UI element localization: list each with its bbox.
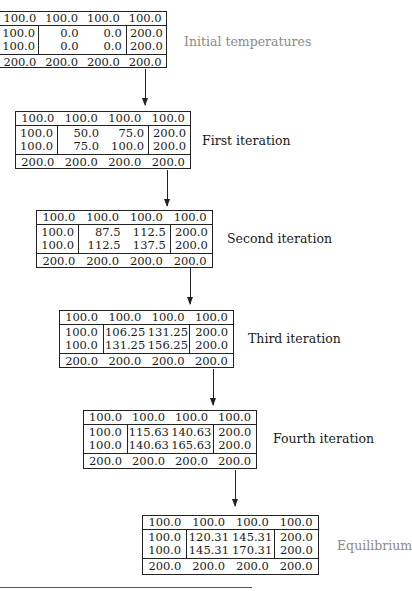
cell: 200.0	[231, 559, 275, 573]
inner-col-1: 115.63 140.63	[128, 425, 171, 453]
cell: 100.0	[103, 311, 146, 324]
cell: 137.5	[125, 239, 166, 252]
inner-col-1: 120.31 145.31	[187, 530, 230, 558]
grid-top-row: 100.0 100.0 100.0 100.0	[60, 311, 233, 325]
cell: 200.0	[127, 454, 170, 468]
cell: 200.0	[170, 454, 213, 468]
footnote-rule	[0, 587, 252, 588]
grid-equilibrium: 100.0 100.0 100.0 100.0 100.0 100.0 120.…	[142, 515, 319, 575]
grid-first-iteration: 100.0 100.0 100.0 100.0 100.0 100.0 50.0…	[15, 111, 191, 169]
cell: 165.63	[170, 439, 213, 452]
grid-middle: 100.0 100.0 0.0 0.0 0.0 0.0 200.0 200.0	[0, 26, 166, 54]
grid-top-row: 100.0 100.0 100.0 100.0	[143, 516, 318, 530]
cell: 100.0	[60, 339, 103, 352]
inner-col-1: 87.5 112.5	[79, 225, 124, 253]
cell: 100.0	[37, 239, 78, 252]
stage-label: Fourth iteration	[273, 431, 374, 446]
cell: 0.0	[39, 40, 78, 53]
cell: 100.0	[143, 544, 186, 557]
cell: 100.0	[103, 140, 144, 153]
down-arrow-icon	[145, 69, 146, 105]
cell: 100.0	[60, 311, 103, 324]
left-boundary-col: 100.0 100.0	[143, 530, 187, 558]
grid-top-row: 100.0 100.0 100.0 100.0	[16, 112, 190, 126]
cell: 200.0	[103, 155, 147, 169]
cell: 100.0	[147, 112, 191, 125]
cell: 200.0	[103, 354, 146, 368]
inner-col-1: 50.0 75.0	[58, 126, 103, 154]
cell: 200.0	[190, 354, 233, 368]
cell: 100.0	[41, 12, 83, 25]
left-boundary-col: 100.0 100.0	[0, 26, 39, 54]
grid-initial: 100.0 100.0 100.0 100.0 100.0 100.0 0.0 …	[0, 11, 167, 68]
cell: 170.31	[231, 544, 274, 557]
grid-middle: 100.0 100.0 115.63 140.63 140.63 165.63 …	[84, 425, 256, 453]
grid-top-row: 100.0 100.0 100.0 100.0	[84, 411, 256, 425]
cell: 100.0	[231, 516, 275, 529]
cell: 200.0	[168, 254, 212, 268]
cell: 145.31	[187, 544, 230, 557]
down-arrow-icon	[190, 268, 191, 304]
stage-label: Third iteration	[248, 331, 341, 346]
right-boundary-col: 200.0 200.0	[171, 225, 212, 253]
grid-middle: 100.0 100.0 120.31 145.31 145.31 170.31 …	[143, 530, 318, 558]
cell: 75.0	[58, 140, 99, 153]
grid-bottom-row: 200.0 200.0 200.0 200.0	[16, 154, 190, 169]
right-boundary-col: 200.0 200.0	[149, 126, 190, 154]
cell: 100.0	[37, 211, 81, 224]
cell: 100.0	[127, 411, 170, 424]
cell: 200.0	[127, 40, 166, 53]
cell: 200.0	[190, 339, 233, 352]
cell: 200.0	[275, 544, 318, 557]
cell: 200.0	[187, 559, 231, 573]
right-boundary-col: 200.0 200.0	[127, 26, 166, 54]
down-arrow-icon	[235, 470, 236, 506]
cell: 100.0	[16, 112, 60, 125]
cell: 100.0	[84, 411, 127, 424]
cell: 200.0	[125, 254, 169, 268]
inner-col-2: 131.25 156.25	[147, 325, 191, 353]
cell: 100.0	[124, 12, 166, 25]
cell: 100.0	[170, 411, 213, 424]
left-boundary-col: 100.0 100.0	[16, 126, 58, 154]
grid-top-row: 100.0 100.0 100.0 100.0	[0, 12, 166, 26]
cell: 200.0	[60, 155, 104, 169]
cell: 100.0	[168, 211, 212, 224]
cell: 100.0	[60, 112, 104, 125]
cell: 200.0	[81, 254, 125, 268]
cell: 200.0	[274, 559, 318, 573]
grid-bottom-row: 200.0 200.0 200.0 200.0	[84, 453, 256, 468]
down-arrow-icon	[213, 369, 214, 405]
right-boundary-col: 200.0 200.0	[214, 425, 257, 453]
cell: 100.0	[0, 12, 41, 25]
cell: 112.5	[79, 239, 120, 252]
cell: 100.0	[143, 516, 187, 529]
stage-label: Second iteration	[227, 231, 332, 246]
cell: 100.0	[187, 516, 231, 529]
cell: 200.0	[149, 140, 190, 153]
cell: 131.25	[104, 339, 147, 352]
grid-middle: 100.0 100.0 50.0 75.0 75.0 100.0 200.0 2…	[16, 126, 190, 154]
cell: 100.0	[84, 439, 127, 452]
cell: 0.0	[83, 40, 122, 53]
grid-middle: 100.0 100.0 87.5 112.5 112.5 137.5 200.0…	[37, 225, 212, 253]
cell: 140.63	[128, 439, 171, 452]
cell: 200.0	[16, 155, 60, 169]
cell: 100.0	[83, 12, 125, 25]
left-boundary-col: 100.0 100.0	[60, 325, 104, 353]
left-boundary-col: 100.0 100.0	[84, 425, 128, 453]
left-boundary-col: 100.0 100.0	[37, 225, 79, 253]
cell: 200.0	[147, 155, 191, 169]
grid-middle: 100.0 100.0 106.25 131.25 131.25 156.25 …	[60, 325, 233, 353]
cell: 200.0	[60, 354, 103, 368]
grid-bottom-row: 200.0 200.0 200.0 200.0	[143, 558, 318, 573]
inner-col-2: 0.0 0.0	[83, 26, 127, 54]
cell: 200.0	[37, 254, 81, 268]
inner-col-2: 112.5 137.5	[125, 225, 171, 253]
cell: 100.0	[274, 516, 318, 529]
cell: 100.0	[103, 112, 147, 125]
right-boundary-col: 200.0 200.0	[275, 530, 318, 558]
grid-third-iteration: 100.0 100.0 100.0 100.0 100.0 100.0 106.…	[59, 310, 234, 368]
cell: 100.0	[147, 311, 190, 324]
cell: 100.0	[190, 311, 233, 324]
